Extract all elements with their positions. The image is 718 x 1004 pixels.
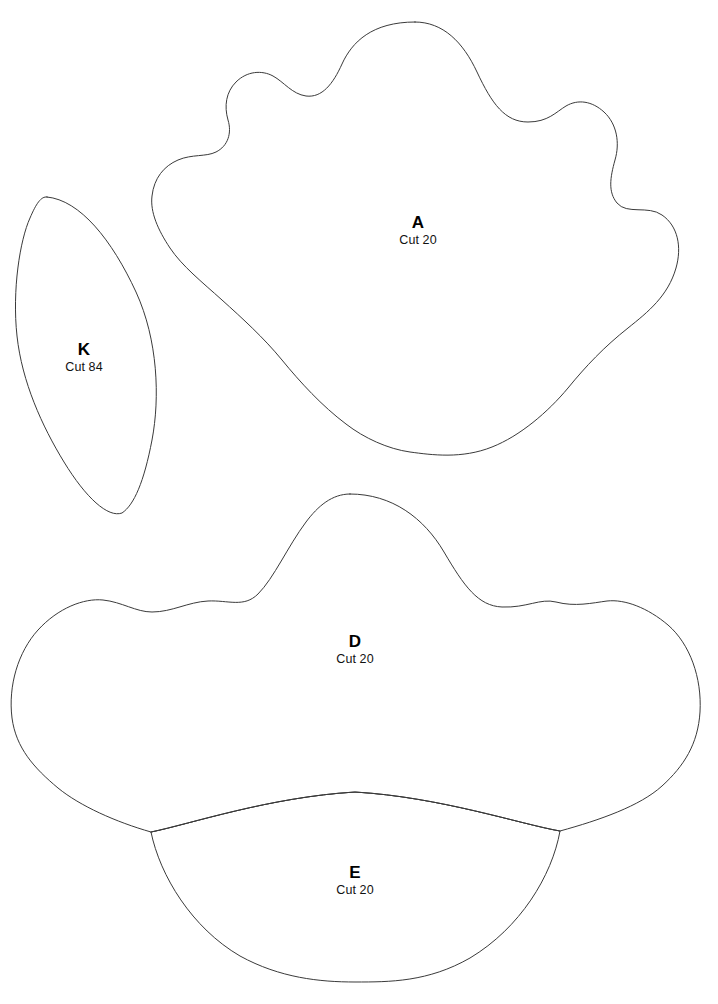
pattern-outlines-canvas [0,0,718,1004]
pattern-sheet: A Cut 20 K Cut 84 D Cut 20 E Cut 20 [0,0,718,1004]
